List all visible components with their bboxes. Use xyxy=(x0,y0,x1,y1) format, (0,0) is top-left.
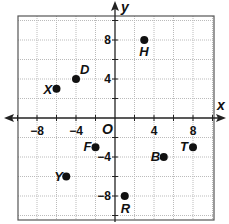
x-axis-label: x xyxy=(216,97,226,113)
point-label: X xyxy=(43,82,54,97)
point-marker xyxy=(62,173,70,181)
y-axis-label: y xyxy=(120,0,130,15)
point-marker xyxy=(121,192,129,200)
point-y: Y xyxy=(54,169,70,184)
point-marker xyxy=(72,75,80,83)
y-tick-label: −4 xyxy=(97,150,111,164)
point-label: B xyxy=(151,149,160,164)
x-tick-label: 4 xyxy=(151,124,158,138)
y-tick-label: 8 xyxy=(104,33,111,47)
point-label: Y xyxy=(54,169,64,184)
x-tick-label: 8 xyxy=(190,124,197,138)
point-b: B xyxy=(151,149,168,164)
point-marker xyxy=(189,143,197,151)
point-r: R xyxy=(121,192,131,216)
point-d: D xyxy=(72,62,90,83)
point-x: X xyxy=(43,82,61,97)
point-h: H xyxy=(139,36,149,59)
point-label: D xyxy=(80,62,90,77)
coordinate-plane: xyO −8−44884−4−8 XDHFYBTR xyxy=(0,0,229,224)
point-marker xyxy=(53,85,61,93)
y-tick-label: −8 xyxy=(97,189,111,203)
point-label: R xyxy=(121,201,131,216)
point-label: H xyxy=(139,44,149,59)
y-tick-label: 4 xyxy=(104,72,111,86)
point-marker xyxy=(92,143,100,151)
origin-label: O xyxy=(102,121,113,137)
point-marker xyxy=(160,153,168,161)
x-tick-label: −8 xyxy=(30,124,44,138)
x-tick-label: −4 xyxy=(69,124,83,138)
point-label: T xyxy=(180,139,189,154)
point-marker xyxy=(140,36,148,44)
point-t: T xyxy=(180,139,197,154)
point-label: F xyxy=(84,139,93,154)
